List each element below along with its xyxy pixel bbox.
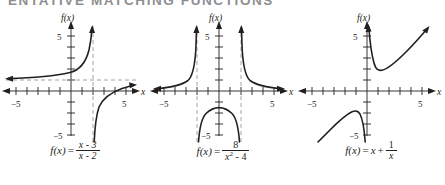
caption-numerator-2: 8 <box>222 140 249 150</box>
curve-up-arrow <box>89 25 95 33</box>
x-axis-arrow <box>132 88 140 94</box>
caption-2: f(x)=8x2 - 4 <box>148 141 298 163</box>
curve-left-branch <box>8 28 92 79</box>
graph-svg-3: f(x) x −5 5 5 −5 <box>296 12 445 144</box>
x-axis-label: x <box>288 87 294 97</box>
caption-equals-2: = <box>212 145 222 157</box>
caption-fn-name-2: f(x) <box>197 145 212 157</box>
x-tick-label-positive: 5 <box>122 99 127 109</box>
y-tick-label-negative: −5 <box>201 131 211 141</box>
graph-svg-1: f(x) x −5 5 5 −5 <box>0 12 150 144</box>
curve-right-branch <box>242 28 282 89</box>
x-tick-label-negative: −5 <box>159 99 169 109</box>
x-tick-label-negative: −5 <box>307 99 317 109</box>
curve-right-branch <box>94 85 134 142</box>
curve-right-arrow <box>129 82 137 88</box>
caption-3: f(x)=x+1x <box>296 141 445 162</box>
caption-fraction-3: 1x <box>386 140 397 161</box>
caption-fraction-1: x - 3x - 2 <box>76 140 100 161</box>
x-tick-label-positive: 5 <box>270 99 275 109</box>
plot-area-3: f(x) x −5 5 5 −5 <box>296 12 445 144</box>
caption-denominator-1: x - 2 <box>76 150 100 161</box>
x-axis-arrow-left <box>2 88 10 94</box>
y-tick-label-negative: −5 <box>53 131 63 141</box>
x-axis-arrow <box>428 88 436 94</box>
y-axis-label: f(x) <box>357 13 370 24</box>
curve-left-branch <box>157 28 197 89</box>
curve-right-up-arrow <box>238 25 244 33</box>
graph-svg-2: f(x) x −5 5 5 −5 <box>148 12 298 144</box>
running-head: ENTATIVE MATCHING FUNCTIONS <box>8 0 274 8</box>
caption-fn-name-1: f(x) <box>50 144 65 156</box>
caption-equals-1: = <box>66 144 76 156</box>
caption-fn-name-3: f(x) <box>345 144 360 156</box>
caption-term1-3: x <box>371 144 376 156</box>
x-axis-label: x <box>436 87 442 97</box>
figure-page: ENTATIVE MATCHING FUNCTIONS <box>0 0 445 185</box>
graph-panel-3: f(x) x −5 5 5 −5 f(x)=x+1x <box>296 12 445 185</box>
caption-denominator-tail-2: - 4 <box>233 151 246 162</box>
x-tick-label-positive: 5 <box>418 99 423 109</box>
y-axis-label: f(x) <box>209 13 222 24</box>
caption-equals-3: = <box>360 144 370 156</box>
y-tick-label-positive: 5 <box>205 32 210 42</box>
caption-numerator-1: x - 3 <box>76 140 100 150</box>
plot-area-2: f(x) x −5 5 5 −5 <box>148 12 298 144</box>
caption-denominator-3: x <box>386 150 397 161</box>
x-axis-arrow-left <box>298 88 306 94</box>
y-axis-label: f(x) <box>61 13 74 24</box>
caption-fraction-2: 8x2 - 4 <box>222 140 249 162</box>
y-tick-label-positive: 5 <box>57 32 62 42</box>
y-tick-label-negative: −5 <box>349 131 359 141</box>
x-tick-label-negative: −5 <box>11 99 21 109</box>
curve-right-branch <box>369 27 427 70</box>
plot-area-1: f(x) x −5 5 5 −5 <box>0 12 150 144</box>
y-tick-label-positive: 5 <box>353 32 358 42</box>
caption-1: f(x)=x - 3x - 2 <box>0 141 150 162</box>
caption-plus-3: + <box>376 144 386 156</box>
x-axis-label: x <box>140 87 146 97</box>
caption-numerator-3: 1 <box>386 140 397 150</box>
curve-left-up-arrow <box>193 25 199 33</box>
curve-left-arrow <box>5 76 13 82</box>
graph-panel-2: f(x) x −5 5 5 −5 f(x)=8x2 - 4 <box>148 12 298 185</box>
graph-panel-1: f(x) x −5 5 5 −5 f(x)=x - 3x - 2 <box>0 12 150 185</box>
